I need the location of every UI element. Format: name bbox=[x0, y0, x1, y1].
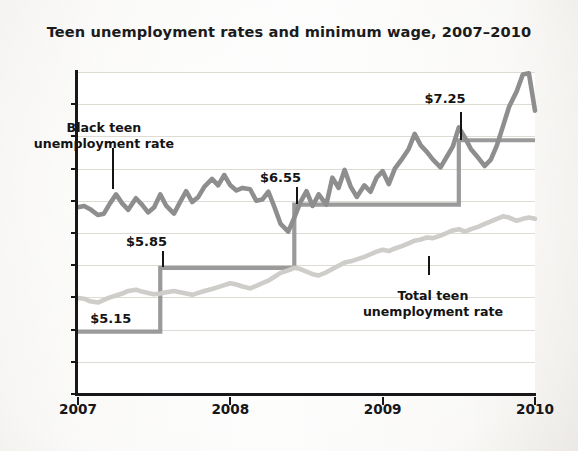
y-axis-tick-mark bbox=[71, 393, 78, 395]
annotation-leader-line bbox=[112, 148, 114, 189]
wage-label: $5.15 bbox=[90, 311, 131, 326]
annotation-line-2: unemployment rate bbox=[34, 136, 174, 152]
x-axis-line bbox=[75, 393, 536, 396]
wage-label-leader-line bbox=[296, 187, 298, 204]
annotation-line-2: unemployment rate bbox=[363, 304, 503, 320]
wage-label-leader-line bbox=[162, 251, 164, 267]
x-axis-tick-mark bbox=[534, 397, 536, 405]
annotation-line-1: Black teen bbox=[34, 120, 174, 136]
wage-label: $7.25 bbox=[425, 91, 466, 106]
annotation-black-teen: Black teenunemployment rate bbox=[34, 120, 174, 152]
chart-title: Teen unemployment rates and minimum wage… bbox=[0, 23, 578, 40]
wage-label-leader-line bbox=[460, 112, 462, 140]
x-axis-tick-mark bbox=[77, 397, 79, 405]
y-axis-tick-mark bbox=[71, 264, 78, 266]
plot-area: Black teenunemployment rateTotal teenune… bbox=[78, 72, 535, 394]
y-axis-tick-mark bbox=[71, 135, 78, 137]
chart-figure: Teen unemployment rates and minimum wage… bbox=[0, 0, 578, 451]
y-axis-tick-mark bbox=[71, 296, 78, 298]
y-axis-tick-mark bbox=[71, 103, 78, 105]
annotation-line-1: Total teen bbox=[363, 288, 503, 304]
wage-label: $6.55 bbox=[260, 170, 301, 185]
y-axis-tick-mark bbox=[71, 361, 78, 363]
y-axis-tick-mark bbox=[71, 329, 78, 331]
annotation-total-teen: Total teenunemployment rate bbox=[363, 288, 503, 320]
y-axis-tick-mark bbox=[71, 200, 78, 202]
wage-label: $5.85 bbox=[126, 234, 167, 249]
y-axis-tick-mark bbox=[71, 232, 78, 234]
y-axis-tick-mark bbox=[71, 168, 78, 170]
annotation-leader-line bbox=[428, 256, 430, 276]
x-axis-tick-mark bbox=[382, 397, 384, 405]
x-axis-tick-mark bbox=[229, 397, 231, 405]
